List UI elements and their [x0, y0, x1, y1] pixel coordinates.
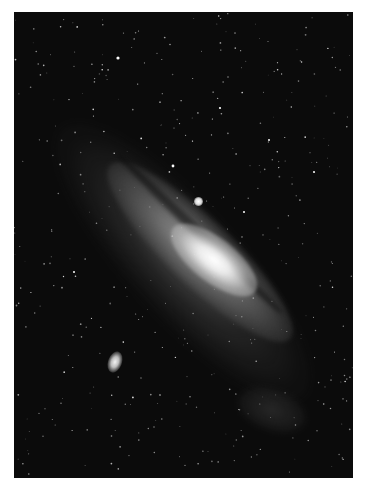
galaxy-photo — [14, 12, 353, 478]
satellite-galaxy-upper — [194, 197, 203, 206]
